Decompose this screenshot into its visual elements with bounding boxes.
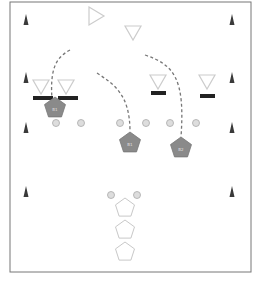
ball-icon (193, 120, 200, 127)
ball-icon (167, 120, 174, 127)
drill-diagram: B1B1B2 (0, 0, 258, 282)
player-label: B1 (127, 142, 133, 147)
ball-icon (143, 120, 150, 127)
ball-icon (108, 192, 115, 199)
ball-icon (117, 120, 124, 127)
mini-goal-icon (200, 94, 215, 98)
mini-goal-icon (58, 96, 78, 100)
player-label: B2 (178, 147, 184, 152)
player-label: B1 (52, 107, 58, 112)
ball-icon (53, 120, 60, 127)
mini-goal-icon (33, 96, 53, 100)
ball-icon (134, 192, 141, 199)
mini-goal-icon (151, 91, 166, 95)
ball-icon (78, 120, 85, 127)
